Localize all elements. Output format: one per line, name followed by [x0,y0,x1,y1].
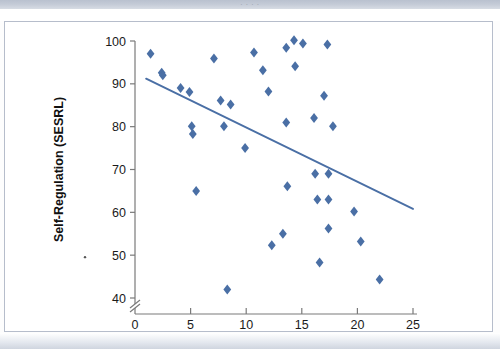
data-point-23 [291,61,299,71]
x-tick-label-20: 20 [350,318,364,332]
data-point-30 [320,91,328,101]
data-point-13 [241,143,249,153]
y-tick-label-40: 40 [112,292,126,306]
data-point-33 [325,224,333,234]
data-point-10 [220,121,228,131]
data-point-14 [250,48,258,58]
chart-canvas: 4050607080901000510152025Stigma Sensitiv… [5,22,494,333]
data-point-35 [350,206,358,216]
data-point-4 [186,87,194,97]
data-point-34 [329,121,337,131]
data-point-9 [217,96,225,106]
x-tick-label-0: 0 [132,318,139,332]
y-tick-label-70: 70 [112,163,126,177]
data-point-26 [311,169,319,179]
trend-line [146,79,413,209]
data-point-25 [310,113,318,123]
data-point-19 [282,43,290,53]
data-point-6 [189,129,197,139]
x-tick-label-15: 15 [295,318,309,332]
data-point-18 [279,229,287,239]
data-point-17 [268,240,276,250]
scatter-plot: 4050607080901000510152025Stigma Sensitiv… [5,22,494,333]
data-point-24 [299,39,307,49]
data-point-36 [357,236,365,246]
y-tick-label-50: 50 [112,249,126,263]
data-point-11 [223,284,231,294]
data-point-7 [192,186,200,196]
y-tick-label-80: 80 [112,120,126,134]
data-point-27 [313,194,321,204]
y-tick-label-90: 90 [112,77,126,91]
data-point-22 [290,35,298,45]
data-point-3 [177,83,185,93]
data-point-20 [282,117,290,127]
top-band-ghost-text: · · · · [0,0,500,9]
data-point-31 [325,169,333,179]
data-point-8 [210,54,218,64]
x-tick-label-25: 25 [406,318,420,332]
figure-frame: 4050607080901000510152025Stigma Sensitiv… [4,21,493,332]
y-axis-title: Self-Regulation (SESRL) [52,97,66,242]
x-tick-label-10: 10 [239,318,253,332]
data-point-37 [376,275,384,285]
data-point-28 [316,257,324,267]
scanned-bottom-band [0,333,500,349]
data-point-12 [227,99,235,109]
band-gap [0,9,500,21]
y-tick-label-60: 60 [112,206,126,220]
data-point-15 [259,65,267,75]
y-tick-label-100: 100 [105,35,126,49]
scanned-top-band: · · · · [0,0,500,9]
data-point-29 [323,39,331,49]
data-point-16 [265,87,273,97]
data-point-32 [325,194,333,204]
x-tick-label-5: 5 [187,318,194,332]
data-point-5 [188,121,196,131]
data-point-21 [283,181,291,191]
scan-speck [84,256,86,258]
data-point-0 [147,49,155,59]
figure-page: · · · · 4050607080901000510152025Stigma … [0,0,500,349]
